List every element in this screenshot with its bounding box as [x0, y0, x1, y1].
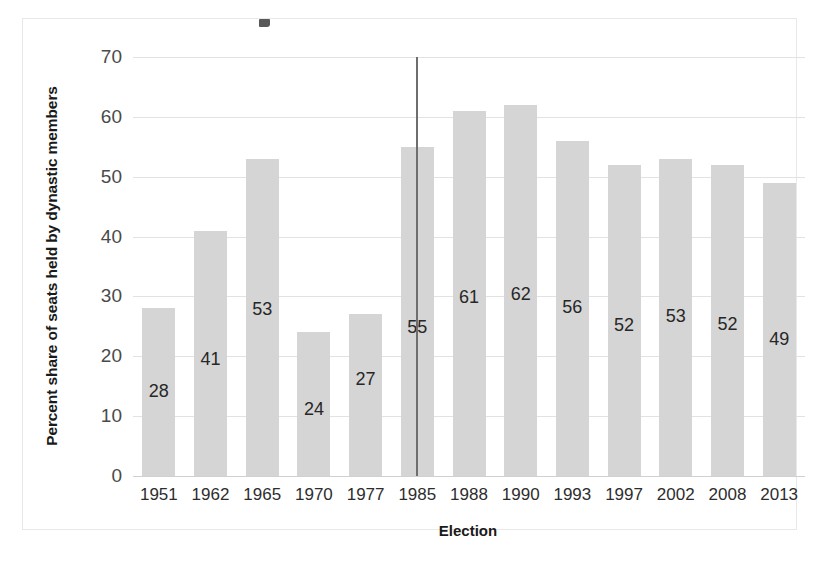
plot-area: 010203040506070 284153242755616256525352… [133, 57, 805, 476]
bar-value-label: 28 [136, 381, 182, 402]
y-axis-tick-label: 40 [101, 226, 122, 248]
gridline: 0 [133, 476, 805, 477]
clipped-title-glyph-fragment [259, 19, 270, 27]
bar-value-label: 52 [601, 315, 647, 336]
bar-value-label: 56 [549, 297, 595, 318]
y-axis-tick-label: 0 [111, 465, 122, 487]
chart-frame: Percent share of seats held by dynastic … [22, 18, 797, 530]
bar-value-label: 27 [343, 369, 389, 390]
x-axis-tick-labels: 1951196219651970197719851988199019931997… [133, 485, 805, 511]
y-axis-tick-label: 60 [101, 106, 122, 128]
bar-value-label: 62 [498, 284, 544, 305]
bar-value-label: 52 [704, 314, 750, 335]
x-axis-title: Election [133, 522, 803, 539]
reference-line-1985-icon [416, 57, 418, 476]
gridline: 70 [133, 57, 805, 58]
bar-value-label: 41 [188, 349, 234, 370]
bar-value-label: 53 [239, 299, 285, 320]
bar-value-label: 24 [291, 399, 337, 420]
y-axis-tick-label: 50 [101, 166, 122, 188]
y-axis-tick-label: 70 [101, 46, 122, 68]
bar-value-label: 61 [446, 287, 492, 308]
bar[interactable] [349, 314, 382, 476]
bar-value-label: 49 [756, 329, 802, 350]
y-axis-title: Percent share of seats held by dynastic … [43, 51, 61, 481]
y-axis-tick-label: 20 [101, 345, 122, 367]
y-axis-tick-label: 10 [101, 405, 122, 427]
y-axis-tick-label: 30 [101, 285, 122, 307]
x-axis-tick-label: 2013 [749, 485, 809, 505]
bar-value-label: 53 [653, 306, 699, 327]
